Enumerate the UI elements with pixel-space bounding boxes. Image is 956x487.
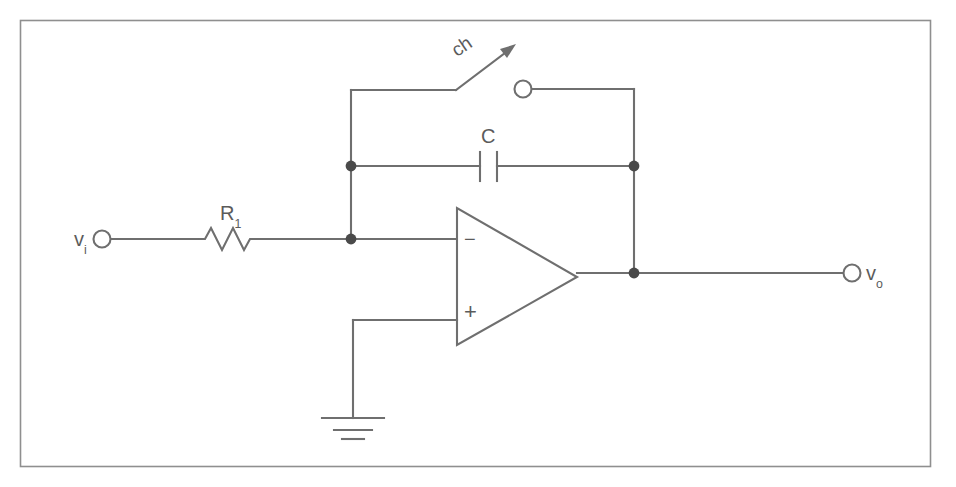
output-voltage-label: vo [866,263,883,287]
resistor-label: R1 [220,203,241,227]
capacitor-label: C [481,126,495,146]
junction-dot-output-node [629,268,640,279]
input-terminal-circle[interactable] [94,231,111,248]
junction-dot-output-top [629,161,640,172]
switch-open-terminal[interactable] [515,81,532,98]
resistor-r1-symbol [200,228,256,250]
opamp-noninverting-label: + [464,301,477,323]
output-voltage-main: v [866,262,876,284]
input-voltage-label: vi [74,229,87,253]
resistor-label-main: R [220,202,234,224]
schematic-canvas: vi vo R1 C ch − + [0,0,956,487]
circuit-diagram [0,0,956,487]
output-voltage-sub: o [876,277,883,291]
input-voltage-main: v [74,228,84,250]
output-terminal-circle[interactable] [844,265,861,282]
opamp-inverting-label: − [464,229,476,249]
junction-dot-inverting-node [346,234,357,245]
resistor-label-sub: 1 [234,217,241,231]
junction-dot-inverting-top [346,161,357,172]
input-voltage-sub: i [84,243,87,257]
